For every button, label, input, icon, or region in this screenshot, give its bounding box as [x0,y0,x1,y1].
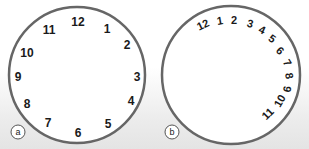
panel-label-badge: b [165,125,180,140]
clock-number: 11 [43,24,56,36]
clock-number: 7 [45,117,52,129]
clock-number: 1 [104,23,111,35]
clock-number: 5 [105,118,112,130]
clock-figure: 121234567891011a 121234567891011b [0,0,309,149]
clock-panel-a: 121234567891011a [0,0,154,149]
clock-number: 6 [75,127,82,139]
clock-number: 2 [231,15,237,26]
clock-number: 3 [134,71,141,83]
panel-label-badge: a [11,125,26,140]
clock-number: 12 [71,16,84,28]
clock-number: 2 [124,39,131,51]
clock-number: 8 [24,98,31,110]
clock-panel-b: 121234567891011b [154,0,308,149]
clock-number: 9 [15,71,22,83]
clock-number: 10 [20,47,33,59]
clock-number: 4 [128,95,135,107]
